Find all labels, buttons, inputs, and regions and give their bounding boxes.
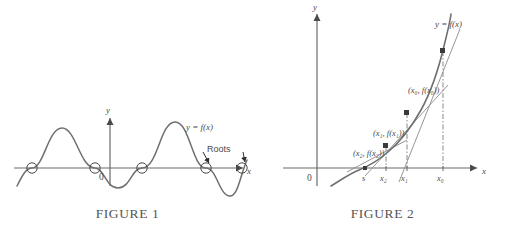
figure-1-graph: y x 0 y = f(x) Roots xyxy=(0,0,255,200)
figure-1-caption: FIGURE 1 xyxy=(0,206,255,222)
figure-1-origin-label: 0 xyxy=(99,172,104,182)
point-label-x2: (x₂, f(x₂)) xyxy=(353,148,385,158)
figure-1: y x 0 y = f(x) Roots FIGURE 1 xyxy=(0,0,255,230)
tick-label-x0: x₀ xyxy=(436,173,444,183)
figure-2-y-axis-label: y xyxy=(312,2,317,12)
point-label-x1: (x₁, f(x₁)) xyxy=(373,128,405,138)
tick-label-x2: x₂ xyxy=(379,173,387,183)
roots-pointer-arrow xyxy=(243,152,245,162)
root-marker-s xyxy=(363,166,367,170)
point-marker-x1 xyxy=(404,110,409,115)
figures-page: y x 0 y = f(x) Roots FIGURE 1 xyxy=(0,0,510,230)
roots-label: Roots xyxy=(207,144,231,154)
figure-2: y x 0 y = f(x) (x₀, f(x₀)) (x₁, f(x₁)) (… xyxy=(255,0,510,230)
figure-2-origin-label: 0 xyxy=(307,173,312,183)
figure-2-x-axis-label: x xyxy=(481,166,486,176)
figure-1-y-axis-label: y xyxy=(105,105,110,115)
point-marker-x0 xyxy=(440,48,445,53)
figure-2-curve xyxy=(331,14,451,186)
tick-label-x1: x₁ xyxy=(400,173,408,183)
figure-2-caption: FIGURE 2 xyxy=(255,206,510,222)
figure-2-graph: y x 0 y = f(x) (x₀, f(x₀)) (x₁, f(x₁)) (… xyxy=(255,0,510,200)
figure-1-curve-label: y = f(x) xyxy=(185,122,213,132)
figure-1-x-axis-label: x xyxy=(246,166,251,176)
tick-label-s: s xyxy=(362,173,366,183)
figure-2-curve-label: y = f(x) xyxy=(434,19,462,29)
figure-1-curve xyxy=(17,122,247,196)
point-label-x0: (x₀, f(x₀)) xyxy=(408,85,440,95)
